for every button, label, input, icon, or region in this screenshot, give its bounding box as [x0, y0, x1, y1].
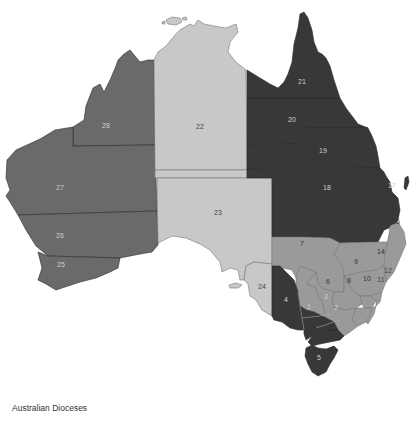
label-7: 7 — [300, 240, 304, 247]
region-22-south-strip — [155, 170, 247, 178]
map-caption: Australian Dioceses — [12, 403, 87, 413]
region-22[interactable] — [154, 20, 247, 170]
island-kangaroo — [229, 283, 242, 288]
label-17: 17 — [388, 182, 396, 189]
label-8: 8 — [347, 277, 351, 284]
label-4: 4 — [284, 296, 288, 303]
label-24: 24 — [258, 283, 266, 290]
label-14: 14 — [377, 248, 385, 255]
label-25: 25 — [57, 261, 65, 268]
label-2: 2 — [334, 304, 338, 311]
region-25[interactable] — [38, 252, 120, 290]
label-20: 20 — [288, 116, 296, 123]
label-22: 22 — [196, 123, 204, 130]
label-27: 27 — [56, 184, 64, 191]
region-21[interactable] — [247, 12, 340, 98]
region-28[interactable] — [73, 50, 155, 146]
label-19: 19 — [319, 147, 327, 154]
region-22-islands — [162, 17, 187, 25]
label-9: 9 — [354, 258, 358, 265]
label-12: 12 — [384, 267, 392, 274]
label-10: 10 — [363, 275, 371, 282]
label-3: 3 — [324, 293, 328, 300]
island-fraser — [404, 176, 409, 190]
region-26[interactable] — [18, 211, 158, 258]
region-5[interactable] — [305, 345, 338, 376]
label-6: 6 — [326, 278, 330, 285]
label-16: 16 — [392, 218, 400, 225]
label-28: 28 — [102, 122, 110, 129]
label-18: 18 — [323, 184, 331, 191]
label-5: 5 — [317, 354, 321, 361]
label-15: 15 — [362, 221, 370, 228]
label-11: 11 — [377, 276, 384, 283]
australia-dioceses-map: 28 27 26 25 22 23 24 21 20 19 18 17 15 1… — [0, 0, 417, 421]
label-1: 1 — [307, 303, 311, 310]
label-23: 23 — [214, 209, 222, 216]
label-21: 21 — [298, 78, 306, 85]
label-26: 26 — [56, 232, 64, 239]
